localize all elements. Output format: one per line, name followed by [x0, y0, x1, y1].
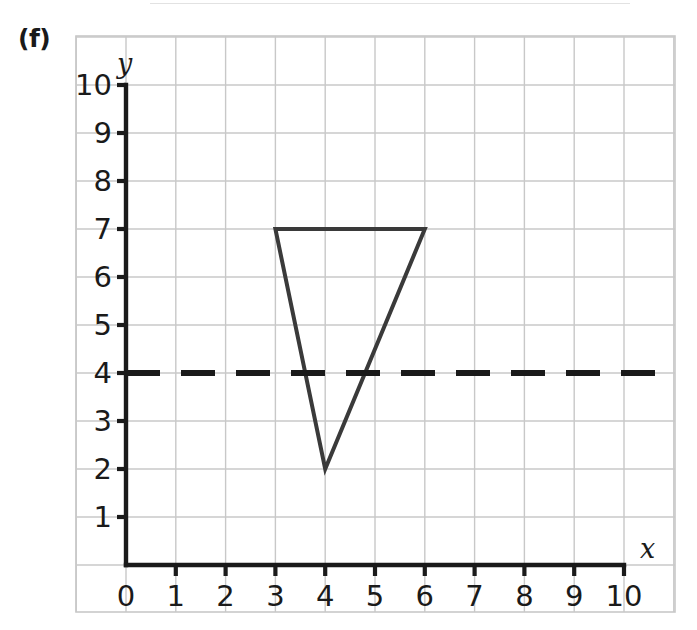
x-axis-label-6: 6	[416, 582, 434, 611]
triangle	[275, 229, 424, 469]
axes-lines	[117, 85, 624, 576]
y-axis-label-8: 8	[94, 167, 112, 196]
y-axis-label-5: 5	[94, 311, 112, 340]
x-axis-label-1: 1	[167, 582, 185, 611]
y-axis-label-7: 7	[94, 215, 112, 244]
x-axis-label-9: 9	[565, 582, 583, 611]
y-axis-label-10: 10	[75, 71, 112, 100]
y-axis-label-3: 3	[94, 407, 112, 436]
x-axis-label-2: 2	[216, 582, 234, 611]
y-axis-label-4: 4	[94, 359, 112, 388]
x-axis-label-0: 0	[117, 582, 135, 611]
y-axis-label-2: 2	[94, 455, 112, 484]
x-axis-label-8: 8	[515, 582, 533, 611]
y-axis-label-9: 9	[94, 119, 112, 148]
y-axis-name: y	[117, 50, 132, 77]
shapes-layer	[126, 229, 674, 469]
x-axis-label-3: 3	[266, 582, 284, 611]
coordinate-grid-figure: (f) 10987654321012345678910yx	[0, 0, 697, 630]
x-axis-label-10: 10	[606, 582, 643, 611]
x-axis-label-5: 5	[366, 582, 384, 611]
x-axis-label-4: 4	[316, 582, 334, 611]
x-axis-name: x	[640, 535, 655, 562]
grid-lines	[76, 36, 675, 612]
x-axis-label-7: 7	[465, 582, 483, 611]
y-axis-label-1: 1	[94, 503, 112, 532]
y-axis-label-6: 6	[94, 263, 112, 292]
